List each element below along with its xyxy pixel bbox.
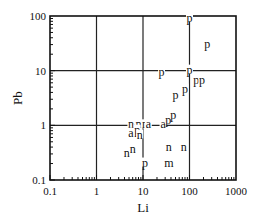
y-tick-labels: 0.1110100 <box>30 10 47 186</box>
x-tick-label: 10 <box>138 185 150 197</box>
y-axis-title: Pb <box>10 91 25 105</box>
x-axis-title: Li <box>137 200 149 215</box>
x-tick-label: 100 <box>181 185 198 197</box>
y-tick-label: 100 <box>30 10 47 22</box>
data-points: ppppppppappnnnaapnnnpnnm <box>123 11 210 170</box>
y-tick-label: 1 <box>41 119 47 131</box>
y-tick-label: 10 <box>35 65 47 77</box>
data-point-m: m <box>164 156 174 170</box>
data-point-n: n <box>166 140 172 154</box>
data-point-p: p <box>187 63 193 77</box>
data-point-p: p <box>182 82 188 96</box>
scatter-chart: 0.11101001000 0.1110100 ppppppppappnnnaa… <box>0 0 259 223</box>
x-tick-labels: 0.11101001000 <box>43 185 247 197</box>
data-point-p: p <box>159 65 165 79</box>
data-point-p: p <box>204 37 210 51</box>
x-tick-label: 0.1 <box>43 185 57 197</box>
data-point-n: n <box>130 142 136 156</box>
y-tick-label: 0.1 <box>32 174 46 186</box>
data-point-p: p <box>187 11 193 25</box>
data-point-n: n <box>181 140 187 154</box>
data-point-p: p <box>199 73 205 87</box>
data-point-p: p <box>142 156 148 170</box>
data-point-p: p <box>170 108 176 122</box>
x-tick-label: 1 <box>94 185 100 197</box>
data-point-p: p <box>173 88 179 102</box>
x-tick-label: 1000 <box>225 185 248 197</box>
data-point-n: n <box>137 128 143 142</box>
data-point-a: a <box>146 117 152 131</box>
